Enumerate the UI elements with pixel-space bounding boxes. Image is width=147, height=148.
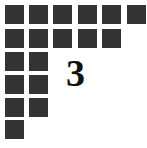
square [5, 98, 24, 117]
square [29, 98, 48, 117]
square [78, 5, 97, 24]
square [29, 52, 48, 71]
square [29, 29, 48, 48]
square [53, 5, 72, 24]
square [127, 5, 146, 24]
square [5, 120, 24, 139]
square [5, 29, 24, 48]
square [53, 29, 72, 48]
square [102, 5, 121, 24]
square [5, 52, 24, 71]
square [29, 75, 48, 94]
square [78, 29, 97, 48]
square [102, 29, 121, 48]
square [5, 75, 24, 94]
number-label: 3 [66, 54, 85, 92]
square [29, 5, 48, 24]
square [5, 5, 24, 24]
